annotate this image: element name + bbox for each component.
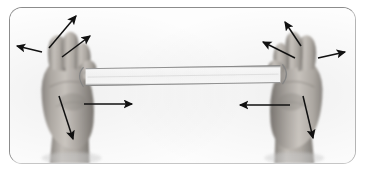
direction-arrow-left-index-up [49, 16, 76, 48]
direction-arrow-left-thumb-up [62, 36, 90, 57]
direction-arrow-left-wrist-down [59, 96, 73, 139]
direction-arrow-right-finger-out [318, 52, 345, 58]
arrow-overlay [0, 0, 367, 173]
direction-arrow-right-wrist-down [303, 96, 313, 138]
figure-container [0, 0, 367, 173]
direction-arrow-right-index-up [285, 22, 301, 46]
direction-arrow-left-finger-out [17, 46, 42, 52]
direction-arrow-right-thumb-left [263, 42, 295, 58]
